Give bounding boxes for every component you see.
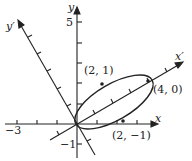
y-tick-label-neg1: −1 — [60, 138, 76, 151]
y-prime-axis-arrow-icon — [18, 20, 24, 28]
x-prime-axis-label: x′ — [175, 50, 184, 63]
x-axis-label: x — [155, 112, 162, 125]
point-label-4-0: (4, 0) — [153, 83, 183, 96]
y-axis-label: y — [67, 1, 75, 14]
point-2-1 — [100, 82, 104, 86]
y-axis-arrow-icon — [74, 7, 80, 14]
y-tick-label-5: 5 — [66, 16, 73, 29]
point-4-0 — [146, 79, 150, 83]
y-prime-axis-ticks — [28, 35, 91, 141]
point-label-2-neg1: (2, −1) — [112, 129, 151, 142]
y-prime-axis-label: y′ — [5, 20, 15, 33]
point-label-2-1: (2, 1) — [84, 64, 114, 77]
diagram-canvas: x y x′ y′ −3 5 −1 (2, 1) (4, 0) (2, −1) — [0, 0, 192, 161]
point-2-neg1 — [121, 119, 125, 123]
x-tick-label-neg3: −3 — [5, 124, 21, 137]
